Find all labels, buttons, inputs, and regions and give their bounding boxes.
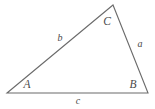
side-label-b: b: [58, 33, 63, 43]
vertex-label-a: A: [23, 79, 30, 91]
triangle-figure: A B C a b c: [0, 0, 155, 109]
triangle-outline-svg: [0, 0, 155, 109]
vertex-label-b: B: [129, 79, 136, 91]
side-label-a: a: [138, 39, 143, 49]
side-label-c: c: [76, 96, 80, 106]
vertex-label-c: C: [103, 16, 111, 28]
